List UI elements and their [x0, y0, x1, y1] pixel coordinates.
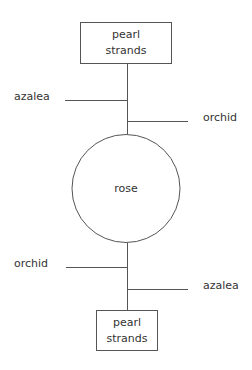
bottom-box-line2: strands	[107, 332, 148, 345]
top-right-branch-label: orchid	[203, 111, 237, 124]
bottom-left-branch-label: orchid	[14, 257, 48, 270]
center-circle-label: rose	[114, 182, 138, 195]
bottom-right-branch-label: azalea	[203, 279, 239, 292]
top-box-line2: strands	[106, 44, 147, 57]
top-box-line1: pearl	[112, 28, 140, 41]
top-left-branch-label: azalea	[14, 90, 50, 103]
bottom-box-line1: pearl	[113, 316, 141, 329]
diagram-canvas: pearl strands azalea orchid rose orchid …	[0, 0, 252, 370]
